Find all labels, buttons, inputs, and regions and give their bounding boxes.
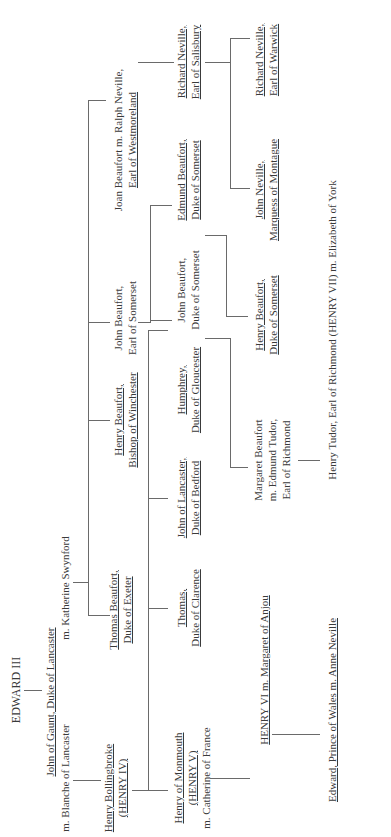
tick-henry-somerset bbox=[226, 316, 248, 317]
tick-john-earl bbox=[88, 322, 110, 323]
henry-somerset-line1: Henry Beaufort, bbox=[252, 275, 266, 354]
john-bedford-line1: John of Lancaster, bbox=[174, 458, 188, 539]
connector-edmund-spine bbox=[226, 235, 227, 317]
katherine-label: m. Katherine Swynford bbox=[59, 536, 71, 640]
tick-joan bbox=[88, 100, 106, 101]
humphrey-line1: Humphrey, bbox=[174, 347, 188, 433]
family-tree-diagram: EDWARD III John of Gaunt, Duke of Lancas… bbox=[0, 0, 391, 837]
john-earl-line2: Earl of Somerset bbox=[125, 281, 139, 355]
connector-henry4-children bbox=[132, 790, 149, 791]
blanche-label: m. Blanche of Lancaster bbox=[59, 724, 71, 832]
henry-somerset-line2: Duke of Somerset bbox=[266, 275, 280, 354]
connector-henry6-edward bbox=[272, 734, 320, 735]
henry-iv-line2: (HENRY IV) bbox=[115, 744, 129, 832]
john-bedford-line2: Duke of Bedford bbox=[188, 458, 202, 539]
tick-thomas-clarence bbox=[148, 608, 168, 609]
joan-line1: Joan Beaufort m. Ralph Neville, bbox=[111, 69, 125, 211]
richard-salisbury-line2: Earl of Salisbury bbox=[188, 25, 202, 100]
connector-katherine-beauforts bbox=[73, 582, 89, 583]
connector-blanche-henry4 bbox=[73, 780, 101, 781]
henry-vii-label: Henry Tudor, Earl of Richmond (HENRY VII… bbox=[326, 180, 338, 479]
joan-line2: Earl of Westmoreland bbox=[125, 69, 139, 211]
margaret-line3: Earl of Richmond bbox=[279, 419, 293, 502]
tick-margaret bbox=[230, 467, 248, 468]
connector-edmund-henry bbox=[205, 235, 227, 236]
thomas-clarence-line1: Thomas, bbox=[174, 569, 188, 647]
richard-salisbury-line1: Richard Neville, bbox=[174, 25, 188, 100]
connector-henry4-spine bbox=[148, 330, 149, 790]
edmund-line2: Duke of Somerset bbox=[188, 139, 202, 220]
margaret-line1: Margaret Beaufort bbox=[251, 419, 265, 502]
connector-salisbury-children bbox=[205, 62, 230, 63]
tick-humphrey bbox=[148, 330, 168, 331]
john-duke-line2: Duke of Somerset bbox=[188, 250, 202, 329]
thomas-exeter-line2: Duke of Exeter bbox=[120, 570, 134, 649]
tick-edmund bbox=[150, 205, 172, 206]
humphrey-line2: Duke of Gloucester bbox=[188, 347, 202, 433]
connector-henry5-henry6 bbox=[210, 778, 250, 779]
connector-beaufort-spine bbox=[88, 100, 89, 583]
connector-john-duke-margaret bbox=[205, 338, 230, 339]
connector-john-earl-spine bbox=[150, 205, 151, 323]
richard-warwick-line2: Earl of Warwick bbox=[266, 24, 280, 97]
richard-warwick-line1: Richard Neville, bbox=[252, 24, 266, 97]
tick-richard-warwick bbox=[230, 38, 250, 39]
tick-henry-winchester bbox=[88, 420, 110, 421]
connector-beaufort-spine-low bbox=[88, 582, 89, 616]
tick-john-montague bbox=[230, 188, 250, 189]
henry-iv-line1: Henry Bollingbroke bbox=[101, 744, 115, 832]
edmund-line1: Edmund Beaufort, bbox=[174, 139, 188, 220]
edward-wales-label: Edward, Prince of Wales m. Anne Neville bbox=[326, 618, 338, 802]
connector-salisbury-spine bbox=[230, 38, 231, 188]
henry-v-line1: Henry of Monmouth bbox=[171, 727, 185, 828]
connector-john-earl-children bbox=[138, 322, 150, 323]
henry-winchester-line2: Bishop of Winchester bbox=[125, 372, 139, 467]
tick-henry5 bbox=[148, 790, 168, 791]
connector-margaret-spine bbox=[230, 338, 231, 468]
tick-john-duke bbox=[150, 320, 172, 321]
henry-vi-label: HENRY VI m. Margaret of Anjou bbox=[258, 595, 270, 745]
connector-joan-salisbury bbox=[138, 62, 174, 63]
john-earl-line1: John Beaufort, bbox=[111, 281, 125, 355]
tick-john-bedford bbox=[148, 498, 168, 499]
connector-edward-gaunt bbox=[24, 690, 42, 691]
thomas-clarence-line2: Duke of Clarence bbox=[188, 569, 202, 647]
edward-iii-label: EDWARD III bbox=[9, 657, 23, 723]
thomas-exeter-line1: Thomas Beaufort, bbox=[106, 570, 120, 649]
john-montague-line2: Marquess of Montague bbox=[266, 139, 280, 241]
henry-winchester-line1: Henry Beaufort, bbox=[111, 372, 125, 467]
john-duke-line1: John Beaufort, bbox=[174, 250, 188, 329]
john-of-gaunt-label: John of Gaunt, Duke of Lancaster bbox=[44, 627, 56, 776]
john-montague-line1: John Neville, bbox=[252, 139, 266, 241]
margaret-line2: m. Edmund Tudor, bbox=[265, 419, 279, 502]
connector-margaret-henry7 bbox=[298, 460, 320, 461]
henry-v-line2: (HENRY V) bbox=[185, 727, 199, 828]
